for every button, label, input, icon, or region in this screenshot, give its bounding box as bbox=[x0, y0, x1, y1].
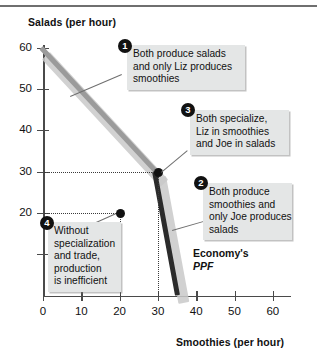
callout-4-line-2: specialization bbox=[54, 238, 116, 251]
ppf-label-line-2: PPF bbox=[193, 260, 249, 273]
callout-1-line-2: and only Liz produces bbox=[133, 61, 240, 74]
x-tick-40 bbox=[196, 291, 197, 301]
x-tick-label-30: 30 bbox=[146, 305, 170, 317]
callout-4-line-1: Without bbox=[54, 225, 116, 238]
callout-2-line-2: smoothies and bbox=[209, 199, 287, 212]
x-axis-line bbox=[43, 296, 291, 298]
callout-2-line-4: salads bbox=[209, 224, 287, 237]
guide-v-smoothies-30 bbox=[158, 172, 159, 296]
x-tick-label-50: 50 bbox=[223, 305, 247, 317]
x-tick-0 bbox=[43, 291, 44, 301]
callout-3: Both specialize, Liz in smoothies and Jo… bbox=[190, 110, 289, 155]
top-divider-rule bbox=[0, 5, 317, 7]
x-axis-title: Smoothies (per hour) bbox=[176, 336, 284, 348]
callout-2-leader-line bbox=[172, 221, 204, 231]
guide-h-salads-30 bbox=[44, 172, 158, 173]
callout-4-line-4: production bbox=[54, 263, 116, 276]
y-tick-label-60: 60 bbox=[8, 41, 32, 53]
callout-1-badge: 1 bbox=[118, 39, 132, 53]
callout-4-badge: 4 bbox=[40, 216, 54, 230]
callout-1-line-1: Both produce salads bbox=[133, 48, 240, 61]
callout-3-leader-line bbox=[161, 150, 188, 173]
callout-3-line-2: Liz in smoothies bbox=[196, 126, 284, 139]
guide-h-salads-20 bbox=[44, 213, 120, 214]
y-tick-label-40: 40 bbox=[8, 123, 32, 135]
callout-4: Without specialization and trade, produc… bbox=[48, 222, 121, 292]
x-tick-60 bbox=[273, 291, 274, 301]
callout-3-line-3: and Joe in salads bbox=[196, 138, 284, 151]
y-tick-40 bbox=[37, 130, 49, 131]
callout-2-line-1: Both produce bbox=[209, 186, 287, 199]
data-point-inefficient[interactable] bbox=[116, 209, 125, 218]
y-tick-label-50: 50 bbox=[8, 82, 32, 94]
y-tick-label-30: 30 bbox=[8, 165, 32, 177]
callout-3-badge: 3 bbox=[181, 103, 195, 117]
callout-1: Both produce salads and only Liz produce… bbox=[127, 45, 245, 90]
x-tick-10 bbox=[81, 291, 82, 301]
y-tick-label-20: 20 bbox=[8, 206, 32, 218]
x-tick-label-60: 60 bbox=[261, 305, 285, 317]
x-tick-label-20: 20 bbox=[108, 305, 132, 317]
x-tick-label-0: 0 bbox=[31, 305, 55, 317]
callout-2-line-3: only Joe produces bbox=[209, 211, 287, 224]
ppf-label-line-1: Economy's bbox=[193, 247, 249, 259]
y-axis-line bbox=[43, 45, 45, 297]
callout-4-line-3: and trade, bbox=[54, 250, 116, 263]
ppf-series-label: Economy's PPF bbox=[193, 247, 249, 272]
y-tick-50 bbox=[37, 89, 49, 90]
y-axis-title: Salads (per hour) bbox=[28, 16, 116, 28]
x-tick-label-40: 40 bbox=[184, 305, 208, 317]
callout-1-line-3: smoothies bbox=[133, 73, 240, 86]
callout-4-line-5: is inefficient bbox=[54, 275, 116, 288]
callout-2-badge: 2 bbox=[194, 176, 208, 190]
x-tick-label-10: 10 bbox=[69, 305, 93, 317]
ppf-chart: Salads (per hour) Smoothies (per hour) 6… bbox=[0, 0, 317, 360]
x-tick-50 bbox=[235, 291, 236, 301]
callout-2: Both produce smoothies and only Joe prod… bbox=[203, 183, 292, 240]
callout-3-line-1: Both specialize, bbox=[196, 113, 284, 126]
